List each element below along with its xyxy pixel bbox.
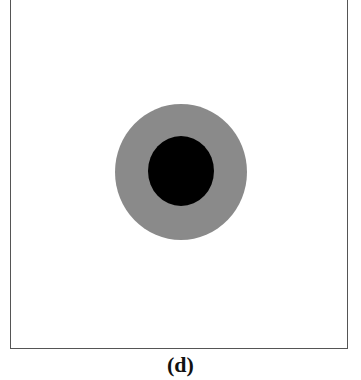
panel-label: (d) (0, 352, 361, 378)
inner-black-disk (148, 136, 214, 206)
concentric-circles (0, 0, 361, 380)
